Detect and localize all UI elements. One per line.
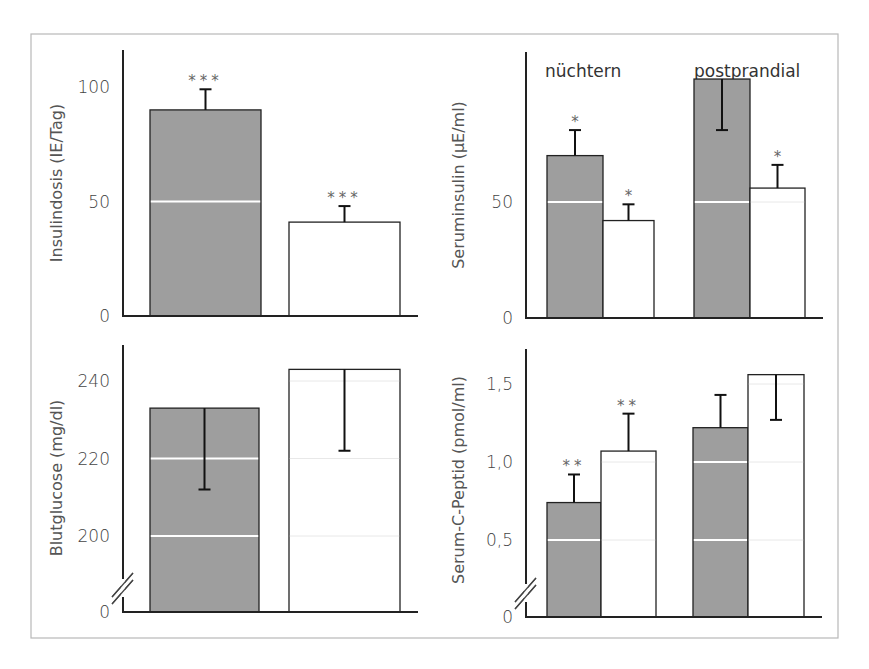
significance-marker: *: [774, 148, 782, 166]
y-tick-label: 0: [99, 306, 110, 326]
bar-filled: **: [547, 457, 601, 617]
significance-marker: ***: [188, 72, 223, 90]
bar-open: [289, 369, 400, 612]
y-axis-label: Insulindosis (IE/Tag): [47, 104, 66, 262]
y-tick-label: 240: [78, 371, 110, 391]
y-tick-label: 0: [502, 308, 513, 328]
y-tick-label: 220: [78, 449, 110, 469]
chart-insulindosis: Insulindosis (IE/Tag)050100******: [47, 50, 418, 326]
bar-filled: [694, 79, 750, 318]
significance-marker: *: [625, 187, 633, 205]
y-axis-label: Serum-C-Peptid (pmol/ml): [449, 376, 468, 584]
significance-marker: *: [571, 113, 579, 131]
group-label: postprandial: [694, 61, 800, 81]
y-tick-label: 0,5: [486, 530, 513, 550]
group-label: nüchtern: [545, 61, 621, 81]
bar-open: [748, 375, 804, 617]
y-tick-label: 1,0: [486, 452, 513, 472]
y-tick-label: 1,5: [486, 374, 513, 394]
y-tick-label: 0: [502, 607, 513, 627]
chart-serum-c-peptid: Serum-C-Peptid (pmol/ml)00,51,01,5****: [449, 349, 822, 627]
y-axis-label: Seruminsulin (µE/ml): [449, 101, 468, 269]
significance-marker: **: [617, 397, 640, 415]
bar-filled: [150, 408, 259, 612]
bar-open: **: [601, 397, 656, 617]
bar-open: *: [750, 148, 805, 318]
y-tick-label: 100: [78, 77, 110, 97]
bar-open: *: [603, 187, 654, 318]
y-tick-label: 50: [88, 192, 110, 212]
bar-open: ***: [289, 189, 400, 316]
figure: Insulindosis (IE/Tag)050100****** Serumi…: [0, 0, 869, 669]
bar-filled: [693, 395, 748, 617]
y-tick-label: 50: [491, 192, 513, 212]
bar-filled: *: [547, 113, 603, 318]
y-tick-label: 0: [99, 602, 110, 622]
chart-blutglucose: Blutglucose (mg/dl)0200220240: [47, 345, 418, 622]
significance-marker: **: [563, 457, 586, 475]
significance-marker: ***: [327, 189, 362, 207]
chart-seruminsulin: Seruminsulin (µE/ml)050nüchternpostprand…: [449, 52, 823, 328]
y-axis-label: Blutglucose (mg/dl): [47, 400, 66, 557]
bar-filled: ***: [150, 72, 261, 316]
y-tick-label: 200: [78, 526, 110, 546]
